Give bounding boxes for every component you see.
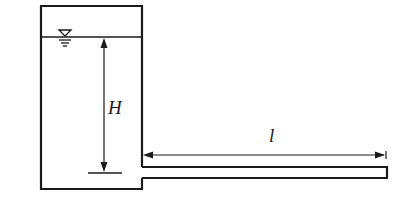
pipe-outline [142, 167, 387, 178]
tank-wall [41, 6, 142, 189]
head-dimension: H [88, 38, 126, 173]
arrow-left-icon [143, 152, 153, 159]
arrow-down-icon [101, 162, 108, 172]
diagram-canvas: H l [0, 0, 409, 215]
tank [41, 6, 142, 189]
head-label: H [107, 97, 123, 118]
length-label: l [269, 125, 274, 146]
pipe [142, 167, 387, 178]
arrow-up-icon [101, 38, 108, 48]
arrow-right-icon [375, 152, 385, 159]
length-dimension: l [143, 125, 386, 159]
water-level-icon [59, 30, 71, 46]
